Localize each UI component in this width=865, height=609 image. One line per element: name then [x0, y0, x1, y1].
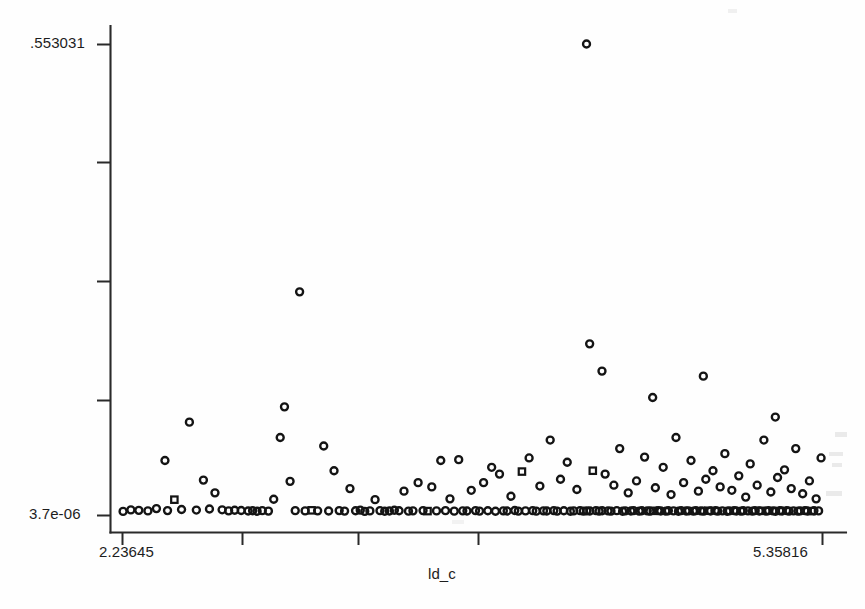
- data-point: [320, 443, 327, 450]
- data-point: [788, 485, 795, 492]
- data-point: [171, 496, 177, 502]
- data-point: [557, 476, 564, 483]
- data-point: [164, 507, 171, 514]
- data-point: [564, 459, 571, 466]
- data-point: [735, 472, 742, 479]
- data-point: [641, 454, 648, 461]
- x-axis-min-label: 2.23645: [99, 543, 154, 560]
- data-point: [625, 489, 632, 496]
- x-axis-max-label: 5.35816: [753, 543, 808, 560]
- data-point: [200, 477, 207, 484]
- data-point: [526, 454, 533, 461]
- data-point: [135, 507, 142, 514]
- data-point: [772, 414, 779, 421]
- data-point: [760, 437, 767, 444]
- data-point: [709, 467, 716, 474]
- data-point: [547, 437, 554, 444]
- x-axis-ticks: [123, 532, 823, 545]
- data-point: [451, 508, 458, 515]
- data-point: [774, 474, 781, 481]
- data-point: [292, 507, 299, 514]
- data-point: [781, 466, 788, 473]
- data-point: [672, 434, 679, 441]
- data-point: [652, 484, 659, 491]
- data-point: [186, 419, 193, 426]
- data-point: [583, 41, 590, 48]
- data-point: [695, 488, 702, 495]
- data-point: [660, 464, 667, 471]
- y-axis-min-label: 3.7e-06: [29, 505, 81, 522]
- data-point: [270, 496, 277, 503]
- data-point: [700, 373, 707, 380]
- data-point: [415, 479, 422, 486]
- data-point-group: [120, 41, 825, 515]
- data-point: [573, 486, 580, 493]
- data-point: [341, 508, 348, 515]
- data-point: [492, 508, 499, 515]
- data-point: [120, 508, 127, 515]
- data-point: [818, 454, 825, 461]
- data-point: [813, 495, 820, 502]
- y-axis-ticks: [97, 45, 110, 516]
- data-point: [153, 505, 160, 512]
- data-point: [754, 482, 761, 489]
- data-point: [287, 478, 294, 485]
- scatter-plot-figure: .553031 3.7e-06 2.23645 5.35816 ld_c: [0, 0, 865, 609]
- data-point: [815, 507, 822, 514]
- data-point: [610, 482, 617, 489]
- data-point: [728, 487, 735, 494]
- data-point: [325, 508, 332, 515]
- data-point: [193, 507, 200, 514]
- data-point: [598, 368, 605, 375]
- data-point: [428, 483, 435, 490]
- data-point: [127, 506, 134, 513]
- data-point: [468, 487, 475, 494]
- data-point: [806, 477, 813, 484]
- data-point: [396, 507, 403, 514]
- data-point: [792, 445, 799, 452]
- data-point: [799, 490, 806, 497]
- data-point: [281, 403, 288, 410]
- data-point: [522, 507, 529, 514]
- data-point: [277, 434, 284, 441]
- data-point: [519, 468, 525, 474]
- data-point: [400, 488, 407, 495]
- data-point: [586, 340, 593, 347]
- data-point: [747, 460, 754, 467]
- data-point: [602, 471, 609, 478]
- data-point: [211, 489, 218, 496]
- axes-group: [111, 26, 847, 533]
- x-axis-title: ld_c: [428, 565, 456, 582]
- data-point: [633, 477, 640, 484]
- data-point: [331, 467, 338, 474]
- data-point: [346, 485, 353, 492]
- data-point: [496, 471, 503, 478]
- data-point: [616, 445, 623, 452]
- data-point: [437, 457, 444, 464]
- data-point: [314, 507, 321, 514]
- data-point: [366, 507, 373, 514]
- data-point: [590, 468, 596, 474]
- data-point: [680, 479, 687, 486]
- data-point: [484, 507, 491, 514]
- data-point: [742, 494, 749, 501]
- data-point: [767, 489, 774, 496]
- data-point: [178, 506, 185, 513]
- data-point: [488, 464, 495, 471]
- data-point: [536, 483, 543, 490]
- data-point: [161, 457, 168, 464]
- data-point: [296, 288, 303, 295]
- data-point: [206, 506, 213, 513]
- data-point: [455, 456, 462, 463]
- data-point: [265, 508, 272, 515]
- y-axis-max-label: .553031: [30, 34, 85, 51]
- data-point: [717, 483, 724, 490]
- data-point: [433, 507, 440, 514]
- data-point: [446, 495, 453, 502]
- data-point: [144, 507, 151, 514]
- data-point: [507, 493, 514, 500]
- data-point: [702, 476, 709, 483]
- data-point: [480, 479, 487, 486]
- data-point: [688, 457, 695, 464]
- data-point: [442, 507, 449, 514]
